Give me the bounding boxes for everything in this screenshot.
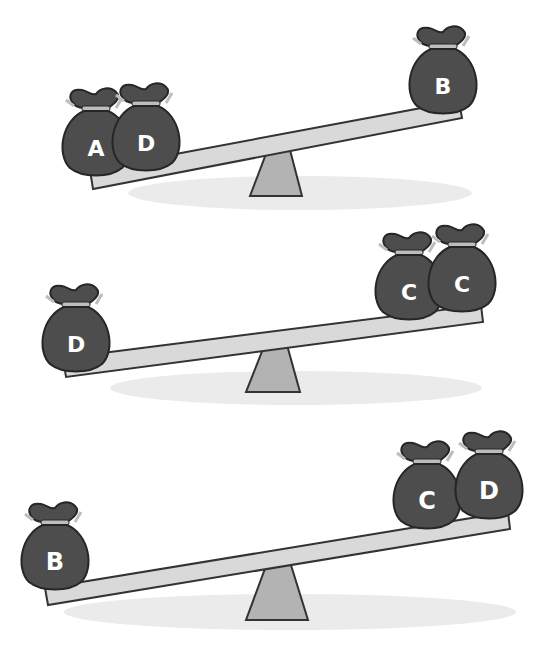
seesaw-1-bag-d: D bbox=[112, 83, 179, 170]
seesaw-puzzle-figure: A D B D C C bbox=[0, 0, 555, 662]
bag-label: B bbox=[435, 74, 452, 99]
seesaw-1-bag-b: B bbox=[409, 26, 476, 113]
seesaw-3: B C D bbox=[21, 431, 522, 630]
seesaw-1: A D B bbox=[62, 26, 476, 210]
bag-label: C bbox=[454, 272, 470, 297]
bag-label: D bbox=[137, 131, 155, 156]
bag-label: C bbox=[401, 280, 417, 305]
bag-label: D bbox=[67, 332, 85, 357]
bag-label: B bbox=[46, 548, 64, 576]
seesaw-3-bag-d: D bbox=[455, 431, 522, 518]
seesaw-2-bag-c2: C bbox=[428, 224, 495, 311]
seesaw-2: D C C bbox=[42, 224, 495, 405]
bag-label: A bbox=[87, 136, 104, 161]
seesaw-3-bag-c: C bbox=[393, 441, 460, 528]
bag-label: C bbox=[418, 487, 436, 515]
seesaw-3-bag-b: B bbox=[21, 502, 88, 589]
bag-label: D bbox=[479, 477, 499, 505]
seesaw-2-bag-d: D bbox=[42, 284, 109, 371]
